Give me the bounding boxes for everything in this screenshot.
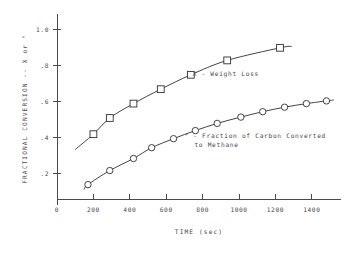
data-point-square: [224, 57, 231, 64]
data-point-circle: [170, 136, 176, 142]
y-tick-label: .2: [40, 170, 49, 177]
y-tick-labels: .2.4.6.81.0: [36, 26, 49, 177]
x-tick-label: 800: [196, 206, 209, 213]
data-point-circle: [281, 104, 287, 110]
data-point-square: [106, 115, 113, 122]
x-tick-label: 200: [87, 206, 100, 213]
data-point-circle: [323, 98, 329, 104]
data-point-circle: [214, 120, 220, 126]
data-point-circle: [85, 181, 91, 187]
axes-group: [53, 14, 341, 205]
x-tick-label: 1000: [230, 206, 247, 213]
data-point-square: [90, 131, 97, 138]
legend-methane: ° - Fraction of Carbon Convertedto Metha…: [184, 132, 326, 148]
x-tick-label: 1400: [303, 206, 320, 213]
x-tick-label: 1200: [267, 206, 284, 213]
data-point-square: [157, 86, 164, 93]
x-tick-label: 0: [55, 206, 59, 213]
legend-weight-loss: X - Weight Loss: [193, 70, 259, 78]
chart-annotations: X - Weight Loss° - Fraction of Carbon Co…: [184, 70, 326, 148]
data-point-circle: [303, 100, 309, 106]
chart-canvas: 0200400600800100012001400 .2.4.6.81.0 X …: [0, 0, 358, 253]
x-tick-label: 400: [123, 206, 136, 213]
x-tick-labels: 0200400600800100012001400: [55, 206, 321, 213]
y-axis-title: FRACTIONAL CONVERSION -- X or °: [21, 34, 28, 184]
data-point-square: [130, 100, 137, 107]
y-tick-label: 1.0: [36, 26, 49, 33]
chart-figure: 0200400600800100012001400 .2.4.6.81.0 X …: [0, 0, 358, 253]
data-point-circle: [238, 114, 244, 120]
y-tick-label: .4: [40, 134, 49, 141]
series-curves: [75, 46, 334, 189]
y-tick-label: .6: [40, 98, 49, 105]
data-point-circle: [260, 109, 266, 115]
x-tick-label: 600: [160, 206, 173, 213]
y-tick-label: .8: [40, 62, 49, 69]
data-point-circle: [148, 145, 154, 151]
data-point-square: [277, 44, 284, 51]
data-point-circle: [107, 167, 113, 173]
x-axis-title: TIME (sec): [175, 228, 223, 235]
series-markers: [85, 44, 330, 187]
data-point-circle: [130, 155, 136, 161]
